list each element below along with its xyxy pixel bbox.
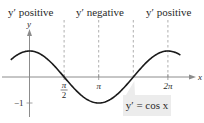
- x-axis-arrow-icon: [189, 75, 196, 80]
- chart: y′ positive y′ negative y′ positive x y …: [0, 0, 204, 123]
- region-label-right: y′ positive: [146, 6, 192, 18]
- x-tick-label-2: 2π: [163, 81, 173, 91]
- x-tick-label-0-den: 2: [62, 90, 67, 100]
- y-tick-label-0: −1: [14, 98, 24, 108]
- y-axis-arrow-icon: [27, 29, 32, 36]
- y-axis-label: y: [26, 19, 31, 29]
- region-label-middle: y′ negative: [76, 6, 124, 18]
- x-tick-label-1: π: [96, 81, 101, 91]
- x-axis-label: x: [197, 72, 202, 82]
- callout-label: y′ = cos x: [126, 99, 169, 111]
- region-label-left: y′ positive: [8, 6, 54, 18]
- dashed-guides: [64, 20, 168, 77]
- x-tick-label-0-num: π: [62, 80, 67, 90]
